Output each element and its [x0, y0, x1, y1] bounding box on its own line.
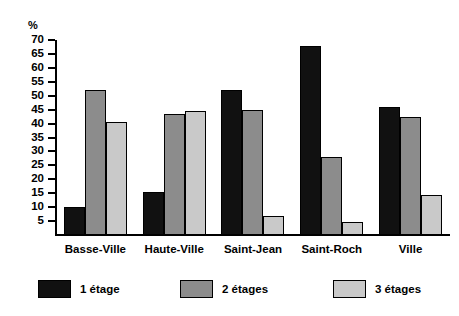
y-axis-tick-label: 60 — [0, 62, 44, 74]
bar — [379, 107, 400, 235]
y-axis-tick-label: 15 — [0, 187, 44, 199]
y-axis-tick — [48, 67, 55, 69]
x-axis-label: Basse-Ville — [56, 243, 135, 255]
legend-item: 2 étages — [180, 280, 268, 298]
legend-label: 3 étages — [375, 283, 421, 295]
bar-group — [214, 40, 293, 235]
legend-swatch — [180, 280, 213, 298]
bar — [185, 111, 206, 235]
y-axis-tick-label: 40 — [0, 118, 44, 130]
y-axis-tick-label: 55 — [0, 76, 44, 88]
y-axis-tick-label: 65 — [0, 48, 44, 60]
y-axis-tick-label: 25 — [0, 159, 44, 171]
bar — [106, 122, 127, 235]
chart-legend: 1 étage2 étages3 étages — [0, 280, 459, 304]
x-axis-label: Saint-Jean — [214, 243, 293, 255]
y-axis-tick — [48, 137, 55, 139]
legend-label: 1 étage — [80, 283, 120, 295]
bar — [400, 117, 421, 235]
y-axis-tick-label: 35 — [0, 132, 44, 144]
y-axis-unit-label: % — [28, 20, 38, 31]
bar — [421, 195, 442, 235]
x-axis-label: Haute-Ville — [135, 243, 214, 255]
y-axis-tick — [48, 95, 55, 97]
bar — [221, 90, 242, 235]
y-axis-tick-label: 70 — [0, 34, 44, 46]
y-axis-tick-label: 50 — [0, 90, 44, 102]
y-axis-tick — [48, 192, 55, 194]
y-axis-tick — [48, 164, 55, 166]
y-axis-tick — [48, 81, 55, 83]
bar — [64, 207, 85, 235]
bar-group — [371, 40, 450, 235]
legend-swatch — [38, 280, 71, 298]
bar — [263, 216, 284, 236]
y-axis-tick-label: 10 — [0, 201, 44, 213]
legend-item: 3 étages — [333, 280, 421, 298]
bar — [143, 192, 164, 235]
bar-group — [56, 40, 135, 235]
y-axis-tick-label: 45 — [0, 104, 44, 116]
y-axis-tick — [48, 220, 55, 222]
y-axis-tick-label: 5 — [0, 215, 44, 227]
y-axis-tick-label: 30 — [0, 145, 44, 157]
bar — [164, 114, 185, 235]
y-axis-tick — [48, 123, 55, 125]
plot-area — [56, 40, 450, 235]
y-axis-tick — [48, 150, 55, 152]
x-axis-label: Ville — [371, 243, 450, 255]
legend-label: 2 étages — [222, 283, 268, 295]
legend-item: 1 étage — [38, 280, 120, 298]
y-axis-tick-label: 20 — [0, 173, 44, 185]
legend-swatch — [333, 280, 366, 298]
bar-chart: % 706560555045403530252015105 Basse-Vill… — [0, 0, 459, 316]
bar-group — [135, 40, 214, 235]
x-axis-label: Saint-Roch — [292, 243, 371, 255]
y-axis-tick — [48, 109, 55, 111]
bar — [85, 90, 106, 235]
y-axis-tick — [48, 206, 55, 208]
bar — [342, 222, 363, 235]
y-axis-tick — [48, 53, 55, 55]
bar — [321, 157, 342, 235]
y-axis-tick — [48, 39, 55, 41]
y-axis-tick — [48, 178, 55, 180]
bar — [300, 46, 321, 235]
bar — [242, 110, 263, 235]
bar-group — [292, 40, 371, 235]
